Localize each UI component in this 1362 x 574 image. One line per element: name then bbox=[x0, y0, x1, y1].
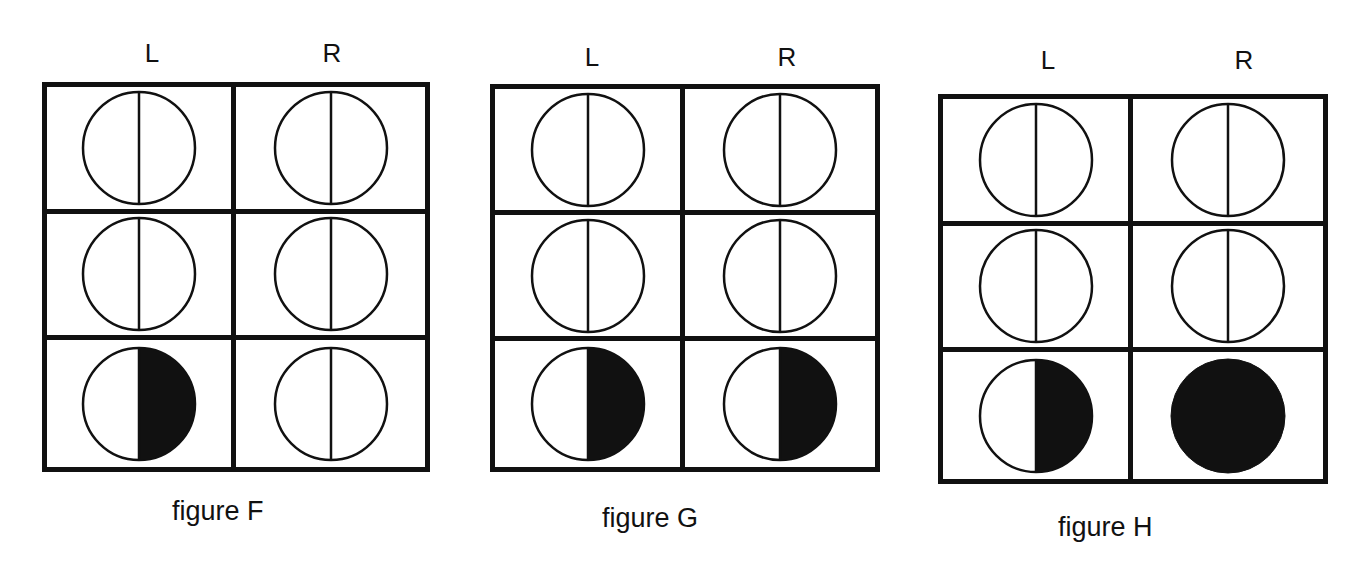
cell-row2-right bbox=[236, 214, 425, 341]
half-line-circle-icon bbox=[529, 91, 647, 209]
column-label-right: R bbox=[767, 44, 807, 70]
figure-h-grid bbox=[938, 94, 1328, 484]
figure-caption: figure F bbox=[172, 496, 264, 526]
half-line-circle-icon bbox=[1169, 227, 1287, 345]
right-half-filled-circle-icon bbox=[529, 345, 647, 463]
column-label-left: L bbox=[572, 44, 612, 70]
right-half-filled-circle-icon bbox=[721, 345, 839, 463]
cell-row1-left bbox=[495, 89, 685, 215]
cell-row1-left bbox=[943, 99, 1133, 226]
cell-row3-right bbox=[1133, 352, 1323, 479]
column-label-right: R bbox=[312, 40, 352, 66]
half-line-circle-icon bbox=[272, 89, 390, 207]
cell-row2-right bbox=[1133, 226, 1323, 353]
cell-row3-right bbox=[685, 341, 875, 467]
half-line-circle-icon bbox=[529, 217, 647, 335]
filled-circle-icon bbox=[1169, 357, 1287, 475]
cell-row3-left bbox=[943, 352, 1133, 479]
half-line-circle-icon bbox=[721, 217, 839, 335]
half-line-circle-icon bbox=[977, 227, 1095, 345]
cell-row3-left bbox=[47, 340, 236, 467]
cell-row2-right bbox=[685, 215, 875, 341]
cell-row2-left bbox=[943, 226, 1133, 353]
right-half-filled-circle-icon bbox=[977, 357, 1095, 475]
cell-row2-left bbox=[495, 215, 685, 341]
figure-caption: figure H bbox=[1058, 512, 1153, 542]
column-label-right: R bbox=[1224, 47, 1264, 73]
cell-row1-right bbox=[685, 89, 875, 215]
half-line-circle-icon bbox=[272, 215, 390, 333]
cell-row1-right bbox=[236, 87, 425, 214]
cell-row2-left bbox=[47, 214, 236, 341]
half-line-circle-icon bbox=[80, 89, 198, 207]
cell-row3-right bbox=[236, 340, 425, 467]
figure-f-grid bbox=[42, 82, 430, 472]
half-line-circle-icon bbox=[80, 215, 198, 333]
column-label-left: L bbox=[132, 40, 172, 66]
half-line-circle-icon bbox=[721, 91, 839, 209]
cell-row1-right bbox=[1133, 99, 1323, 226]
half-line-circle-icon bbox=[977, 101, 1095, 219]
cell-row3-left bbox=[495, 341, 685, 467]
figure-g-grid bbox=[490, 84, 880, 472]
half-line-circle-icon bbox=[1169, 101, 1287, 219]
column-label-left: L bbox=[1028, 47, 1068, 73]
figure-caption: figure G bbox=[602, 503, 698, 533]
right-half-filled-circle-icon bbox=[80, 345, 198, 463]
cell-row1-left bbox=[47, 87, 236, 214]
half-line-circle-icon bbox=[272, 345, 390, 463]
